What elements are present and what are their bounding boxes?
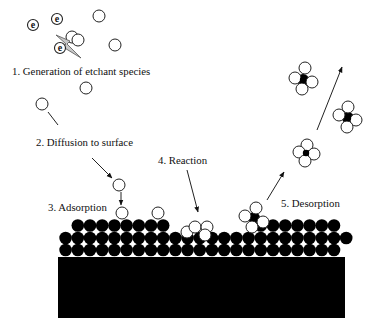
surface-atom <box>84 219 97 232</box>
surface-atom <box>169 232 182 245</box>
desorption-arrow-lower <box>267 172 284 200</box>
surface-atom <box>59 232 72 245</box>
surface-atom <box>267 232 280 245</box>
surface-atom <box>267 244 280 257</box>
product-ligand <box>341 121 353 133</box>
adsorbed-species <box>116 207 164 219</box>
surface-atom <box>328 232 341 245</box>
product-ligand <box>299 62 311 74</box>
surface-atom <box>120 232 133 245</box>
surface-atom <box>133 232 146 245</box>
surface-atom <box>340 232 353 245</box>
surface-atom <box>242 232 255 245</box>
surface-atom <box>157 232 170 245</box>
surface-atom <box>96 219 109 232</box>
surface-atom <box>133 219 146 232</box>
electron-symbol: e <box>31 19 36 30</box>
step-4-label: 4. Reaction <box>158 154 208 166</box>
surface-atom <box>254 244 267 257</box>
etchant-radical <box>113 179 125 191</box>
step-labels: 1. Generation of etchant species 2. Diff… <box>12 65 340 213</box>
diffusion-arrow <box>92 158 112 178</box>
surface-atom <box>169 244 182 257</box>
surface-atom <box>230 244 243 257</box>
surface-atom <box>303 219 316 232</box>
surface-atom <box>145 244 158 257</box>
surface-atom <box>328 244 341 257</box>
surface-row-bottom <box>59 244 340 257</box>
step-5-label: 5. Desorption <box>281 197 340 209</box>
etchant-radical <box>109 39 121 51</box>
step-3-label: 3. Adsorption <box>48 201 107 213</box>
surface-atom <box>328 219 341 232</box>
surface-atom <box>291 232 304 245</box>
adsorbed-radical <box>152 207 164 219</box>
surface-atom <box>84 232 97 245</box>
electron-symbol: e <box>55 13 60 24</box>
electron-icon: e <box>52 13 63 24</box>
surface-atom <box>108 232 121 245</box>
surface-atom <box>72 232 85 245</box>
surface-atom <box>303 232 316 245</box>
surface-atom <box>59 244 72 257</box>
surface-atom <box>84 244 97 257</box>
etchant-radical <box>72 34 84 46</box>
surface-atom <box>108 219 121 232</box>
surface-atom <box>96 232 109 245</box>
surface-atom <box>145 232 158 245</box>
substrate-block <box>58 257 345 318</box>
product-ligand <box>333 109 345 121</box>
surface-atom <box>279 219 292 232</box>
surface-atom <box>279 232 292 245</box>
surface-atom <box>279 244 292 257</box>
surface-atom <box>218 244 231 257</box>
electron-icon: e <box>28 19 39 30</box>
surface-atom <box>157 219 170 232</box>
product-core-visible <box>345 115 351 121</box>
surface-atom <box>157 244 170 257</box>
surface-atom <box>108 244 121 257</box>
surface-atom <box>291 219 304 232</box>
volatile-product-molecule <box>333 101 362 133</box>
surface-atom <box>194 244 207 257</box>
adsorbed-radical <box>116 207 128 219</box>
step-1-label: 1. Generation of etchant species <box>12 65 150 77</box>
product-ligand <box>250 202 262 214</box>
etchant-radical <box>36 98 48 110</box>
product-ligand <box>246 221 258 233</box>
reaction-arrow <box>187 170 198 212</box>
product-ligand <box>239 210 251 222</box>
surface-atom <box>133 244 146 257</box>
surface-atom <box>96 244 109 257</box>
product-ligand <box>257 216 269 228</box>
surface-atom <box>145 219 158 232</box>
etchant-radical <box>93 10 105 22</box>
surface-atom <box>206 244 219 257</box>
volatile-product-molecule <box>289 62 318 95</box>
product-ligand <box>296 83 308 95</box>
surface-atom <box>242 244 255 257</box>
product-ligand <box>289 72 301 84</box>
surface-atom <box>316 244 329 257</box>
surface-atom <box>303 244 316 257</box>
reacting-radical <box>199 229 211 241</box>
product-core-visible <box>300 77 306 83</box>
surface-atom <box>72 244 85 257</box>
surface-atom <box>218 232 231 245</box>
diffusion-trail-line <box>48 112 58 125</box>
surface-atom <box>120 219 133 232</box>
etching-process-diagram: eee 1. Generation of etchant species 2. … <box>0 0 372 328</box>
volatile-product-molecule <box>293 139 320 167</box>
electrons: eee <box>28 13 66 53</box>
surface-atom <box>120 244 133 257</box>
electron-icon: e <box>55 42 66 53</box>
surface-atom <box>316 232 329 245</box>
surface-atom <box>254 232 267 245</box>
surface-atom <box>230 232 243 245</box>
surface-atom <box>291 244 304 257</box>
diagram-canvas: eee 1. Generation of etchant species 2. … <box>0 0 372 328</box>
etchant-radical <box>80 82 92 94</box>
etchant-radicals <box>36 10 125 191</box>
surface-atom <box>72 219 85 232</box>
surface-atom <box>181 244 194 257</box>
